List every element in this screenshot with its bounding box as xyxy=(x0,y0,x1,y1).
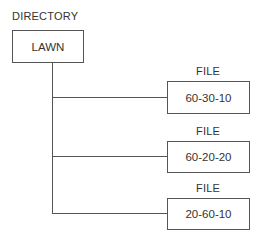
branch-connector-3 xyxy=(52,213,167,214)
file-box-3: 20-60-10 xyxy=(167,198,250,230)
branch-connector-1 xyxy=(52,97,167,98)
file-name-3: 20-60-10 xyxy=(185,208,231,220)
file-heading-1: FILE xyxy=(196,65,220,77)
directory-name: LAWN xyxy=(32,41,65,53)
file-name-2: 60-20-20 xyxy=(185,151,231,163)
file-box-1: 60-30-10 xyxy=(167,81,250,114)
file-heading-2: FILE xyxy=(196,125,220,137)
file-box-2: 60-20-20 xyxy=(167,141,250,173)
directory-heading: DIRECTORY xyxy=(12,10,78,22)
branch-connector-2 xyxy=(52,156,167,157)
directory-box: LAWN xyxy=(12,30,84,63)
trunk-connector xyxy=(52,63,53,214)
file-name-1: 60-30-10 xyxy=(185,92,231,104)
file-heading-3: FILE xyxy=(196,182,220,194)
